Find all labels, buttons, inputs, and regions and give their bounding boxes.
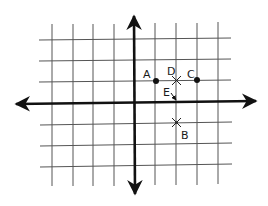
diagram-canvas: A D C E B	[0, 0, 268, 206]
label-c: C	[187, 68, 195, 81]
label-b: B	[181, 129, 189, 142]
coordinate-grid-diagram: A D C E B	[0, 0, 268, 206]
point-e-arrow-icon	[171, 93, 176, 100]
point-b-center	[175, 121, 177, 123]
label-d: D	[167, 65, 175, 78]
point-c-dot	[194, 77, 200, 83]
label-a: A	[143, 68, 151, 81]
label-e: E	[163, 86, 170, 99]
y-axis	[134, 16, 135, 194]
point-a-dot	[153, 78, 159, 84]
